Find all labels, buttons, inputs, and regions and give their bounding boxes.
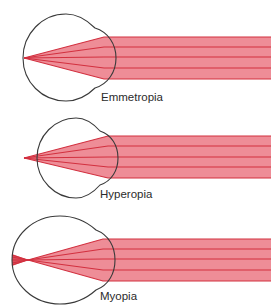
emmetropia-panel	[23, 14, 271, 101]
myopia-incoming-beam	[103, 239, 271, 281]
emmetropia-incoming-beam	[104, 37, 271, 79]
myopia-panel	[12, 216, 271, 304]
hyperopia-label: Hyperopia	[100, 189, 152, 201]
myopia-label: Myopia	[100, 291, 137, 303]
emmetropia-label: Emmetropia	[101, 92, 163, 104]
hyperopia-panel	[24, 118, 271, 198]
refraction-diagram	[0, 0, 279, 308]
